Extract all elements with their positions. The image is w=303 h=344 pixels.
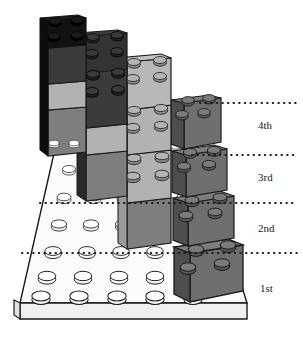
- stack-1-brick-level4: [48, 45, 86, 84]
- stack-4-brick-level4: [171, 95, 221, 149]
- lego-scene: 4th 3rd 2nd 1st: [0, 0, 303, 344]
- lego-staircase-figure: 4th 3rd 2nd 1st: [0, 0, 303, 344]
- level-label-3rd: 3rd: [258, 171, 273, 183]
- level-label-1st: 1st: [260, 282, 273, 294]
- stack-3-brick-level2: [127, 198, 171, 249]
- stack-4-brick-level2: [173, 191, 234, 246]
- stack-2-brick-level3: [86, 124, 127, 155]
- stack-4-brick-level1: [174, 239, 243, 302]
- level-label-4th: 4th: [258, 119, 273, 131]
- stack-4-brick-level3: [172, 145, 227, 197]
- stack-1-brick-level2: [48, 107, 86, 156]
- baseplate-front-edge: [20, 303, 247, 319]
- stack-1-column: [40, 15, 86, 156]
- baseplate-left-edge: [14, 300, 20, 319]
- stack-1-left-face: [40, 18, 48, 156]
- stack-2-brick-level2: [86, 151, 127, 201]
- level-label-2nd: 2nd: [258, 222, 275, 234]
- stack-1-brick-level3: [48, 81, 86, 110]
